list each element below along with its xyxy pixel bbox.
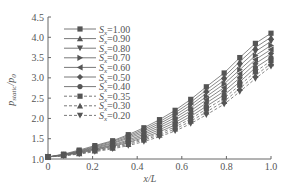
y-tick-label: 4.0 — [32, 32, 45, 43]
y-tick-label: 4.5 — [32, 12, 45, 23]
data-point — [268, 64, 274, 70]
svg-text:pstatic/p0: pstatic/p0 — [5, 74, 18, 107]
legend-marker — [77, 113, 83, 119]
data-point — [188, 121, 194, 127]
x-tick-label: 0.8 — [220, 161, 233, 172]
y-tick-label: 3.0 — [32, 72, 45, 83]
x-tick-label: 0 — [46, 161, 51, 172]
x-tick-label: 1.0 — [265, 161, 278, 172]
legend-marker — [77, 94, 82, 99]
legend-entry: Sx=0.20 — [64, 110, 130, 123]
data-point — [237, 89, 243, 95]
legend-marker — [77, 64, 83, 70]
legend-marker — [77, 55, 83, 61]
y-axis-label: pstatic/p0 — [5, 74, 18, 107]
legend-label: Sx=0.20 — [99, 110, 130, 123]
legend-marker — [77, 74, 83, 80]
legend-marker — [77, 26, 82, 31]
data-point — [203, 112, 209, 118]
x-tick-label: 0.6 — [176, 161, 189, 172]
data-point — [252, 76, 258, 82]
series-line — [48, 45, 271, 157]
data-point — [221, 102, 227, 108]
y-tick-label: 2.5 — [32, 93, 45, 104]
y-tick-label: 2.0 — [32, 113, 45, 124]
x-tick-label: 0.4 — [131, 161, 144, 172]
y-tick-label: 3.5 — [32, 52, 45, 63]
y-tick-label: 1.5 — [32, 133, 45, 144]
y-axis-label-sub0: 0 — [10, 74, 18, 78]
y-axis-label-slash: /p — [5, 78, 16, 87]
legend-marker — [77, 103, 83, 109]
legend-marker — [77, 84, 82, 89]
legend: Sx=1.00Sx=0.90Sx=0.80Sx=0.70Sx=0.60Sx=0.… — [64, 24, 130, 123]
x-axis-label: x/L — [143, 173, 157, 184]
x-tick-label: 0.2 — [86, 161, 99, 172]
y-axis-label-sub: static — [10, 85, 18, 101]
y-tick-label: 1.0 — [32, 154, 45, 165]
chart: 00.20.40.60.81.01.01.52.02.53.03.54.04.5… — [0, 0, 292, 187]
